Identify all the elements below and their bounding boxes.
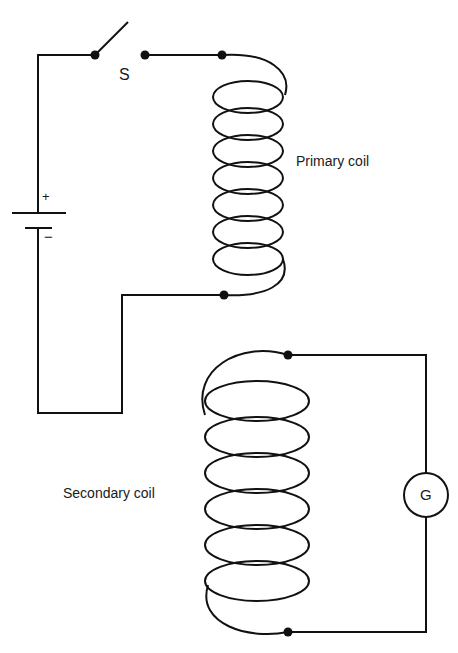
circuit-diagram: [0, 0, 458, 653]
galvanometer-label: G: [420, 486, 432, 503]
secondary-coil: [202, 351, 309, 634]
primary-coil-label: Primary coil: [296, 153, 369, 169]
battery-positive-label: +: [42, 189, 50, 204]
primary-coil: [213, 55, 286, 296]
battery-icon: [12, 206, 66, 232]
switch-blade: [95, 22, 128, 55]
battery-negative-label: −: [44, 228, 53, 245]
switch-label: S: [119, 66, 130, 84]
primary-circuit-wire: [38, 55, 224, 413]
secondary-coil-label: Secondary coil: [63, 485, 155, 501]
